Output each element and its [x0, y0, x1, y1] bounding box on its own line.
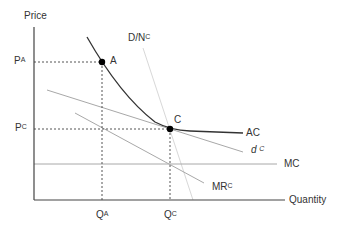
- demand-curve-label: D/NC: [128, 33, 150, 43]
- average-cost-curve: [87, 37, 243, 133]
- price-c-label: PC: [15, 123, 27, 133]
- point-a-marker: [99, 59, 105, 65]
- quantity-a-label: QA: [96, 210, 108, 220]
- market-demand-line: [143, 48, 193, 200]
- ac-curve-label: AC: [246, 128, 260, 138]
- quantity-c-label: QC: [164, 210, 177, 220]
- marginal-revenue-line: [75, 113, 204, 183]
- point-a-label: A: [110, 56, 117, 66]
- point-c-marker: [167, 126, 173, 132]
- mr-curve-label: MRC: [212, 182, 233, 192]
- price-a-label: PA: [14, 56, 25, 66]
- point-c-label: C: [174, 115, 181, 125]
- firm-demand-line: [47, 90, 243, 152]
- firm-demand-label: d C: [251, 145, 264, 155]
- y-axis-label: Price: [24, 11, 47, 21]
- mc-curve-label: MC: [284, 159, 300, 169]
- x-axis-label: Quantity: [289, 195, 326, 205]
